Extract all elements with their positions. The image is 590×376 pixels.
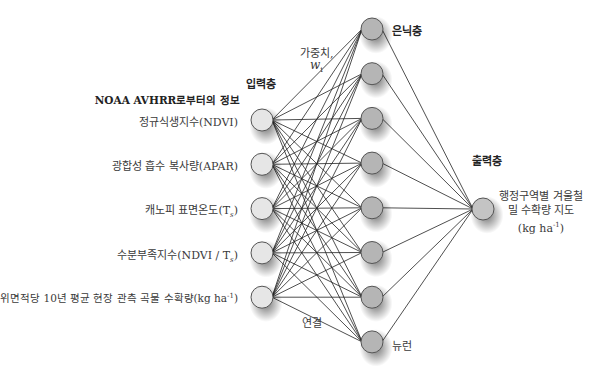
input-node-3-circle [251, 198, 273, 220]
hidden-node-7-circle [361, 286, 383, 308]
input-node-2 [250, 152, 283, 189]
input-label-water-deficit-text: 수분부족지수(NDVI / T [117, 249, 230, 262]
input-layer-title: 입력층 [246, 75, 276, 91]
output-node-circle [472, 198, 494, 220]
input-node-4-circle [251, 242, 273, 264]
hidden-node-2 [360, 61, 393, 98]
input-label-yield-tail: ) [234, 292, 238, 304]
input-label-canopy-temp-tail: ) [234, 204, 238, 217]
input-node-1 [250, 107, 283, 144]
neural-network-diagram [0, 0, 590, 376]
output-layer-title: 출력층 [472, 152, 502, 168]
edge-hidden6-output [382, 209, 473, 253]
hidden-node-5-circle [361, 197, 383, 219]
hidden-node-8-circle [361, 331, 383, 353]
input-node-5 [250, 285, 283, 322]
edge-hidden4-output [382, 163, 473, 209]
input-label-ndvi: 정규식생지수(NDVI) [139, 113, 238, 129]
hidden-node-1-circle [361, 18, 383, 40]
input-node-2-circle [251, 153, 273, 175]
input-node-1-circle [251, 109, 273, 131]
output-label-line3-sup: -1 [553, 221, 560, 229]
input-label-canopy-temp: 캐노피 표면온도(Ts) [145, 201, 238, 219]
nodes [250, 16, 504, 366]
weight-symbol: wi [310, 58, 323, 74]
output-label-line3-tail: ) [560, 222, 564, 235]
edge-hidden7-output [382, 209, 473, 297]
input-label-yield-text: 단위면적당 10년 평균 현장 관측 곡물 수확량(kg ha [0, 292, 227, 304]
input-label-yield-sup: -1 [227, 292, 234, 300]
output-label: 행정구역별 겨울철 밀 수확량 지도 (kg ha-1) [495, 190, 587, 236]
input-node-3 [250, 196, 283, 233]
hidden-node-2-circle [361, 63, 383, 85]
hidden-node-8 [360, 329, 393, 366]
weight-symbol-sub: i [320, 65, 323, 74]
hidden-node-6 [360, 240, 393, 277]
edge-input5-hidden2 [272, 74, 362, 298]
weight-symbol-w: w [310, 58, 320, 72]
input-label-apar: 광합성 흡수 복사량(APAR) [112, 157, 238, 173]
output-label-line2: 밀 수확량 지도 [495, 204, 587, 218]
hidden-node-5 [360, 195, 393, 232]
hidden-node-7 [360, 285, 393, 322]
hidden-node-3-circle [361, 107, 383, 129]
edge-hidden3-output [382, 118, 473, 209]
output-label-line3: (kg ha-1) [495, 218, 587, 236]
input-label-canopy-temp-text: 캐노피 표면온도(T [145, 204, 230, 217]
edge-hidden8-output [382, 209, 473, 342]
hidden-node-1 [360, 16, 393, 53]
input-node-4 [250, 240, 283, 277]
edge-hidden5-output [382, 208, 473, 209]
source-heading: NOAA AVHRR로부터의 정보 [95, 92, 240, 107]
input-node-5-circle [251, 286, 273, 308]
hidden-layer-title: 은닉층 [392, 22, 422, 38]
edge-hidden2-output [382, 74, 473, 209]
neuron-label: 뉴런 [392, 337, 412, 353]
output-label-line3-text: (kg ha [518, 222, 553, 235]
hidden-node-6-circle [361, 242, 383, 264]
input-label-yield: 단위면적당 10년 평균 현장 관측 곡물 수확량(kg ha-1) [0, 290, 238, 305]
hidden-node-4 [360, 150, 393, 187]
hidden-node-3 [360, 106, 393, 143]
hidden-node-4-circle [361, 152, 383, 174]
connection-label: 연결 [302, 314, 322, 330]
output-label-line1: 행정구역별 겨울철 [495, 190, 587, 204]
input-label-water-deficit-tail: ) [234, 249, 238, 262]
edge-hidden1-output [382, 29, 473, 209]
input-label-water-deficit: 수분부족지수(NDVI / Ts) [117, 246, 238, 264]
